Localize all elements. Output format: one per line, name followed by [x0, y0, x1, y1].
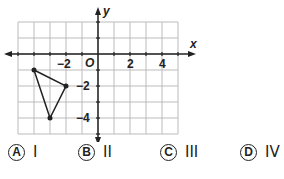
svg-text:4: 4: [159, 57, 166, 71]
svg-text:−2: −2: [76, 79, 90, 93]
svg-text:y: y: [102, 4, 111, 18]
svg-text:2: 2: [127, 57, 134, 71]
choice-text: III: [185, 143, 198, 161]
svg-text:−4: −4: [76, 111, 90, 125]
choice-text: IV: [265, 143, 280, 161]
choice-text: I: [33, 143, 37, 161]
choice-letter-circle: A: [8, 144, 25, 161]
choice-letter-circle: C: [160, 144, 177, 161]
choice-a[interactable]: A I: [8, 143, 37, 161]
svg-text:x: x: [189, 37, 198, 51]
choice-letter-circle: D: [240, 144, 257, 161]
choice-d[interactable]: D IV: [240, 143, 280, 161]
coordinate-plane: xyO−224−2−4: [0, 0, 200, 142]
answer-choices: A I B II C III D IV: [0, 143, 284, 173]
choice-b[interactable]: B II: [78, 143, 112, 161]
svg-text:−2: −2: [57, 57, 71, 71]
choice-c[interactable]: C III: [160, 143, 198, 161]
svg-text:O: O: [85, 56, 95, 70]
axes: [4, 7, 196, 142]
choice-text: II: [103, 143, 112, 161]
choice-letter-circle: B: [78, 144, 95, 161]
